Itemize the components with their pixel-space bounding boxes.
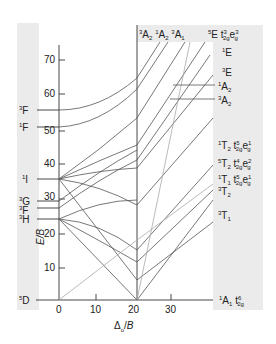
y-tick-10: 10 (44, 263, 55, 273)
y-tick-50: 50 (44, 126, 55, 136)
term-3T2: 3T2 (218, 186, 231, 198)
top-terms: 3A2 1A2 3A1 (139, 29, 185, 41)
term-1T1: 1T1 t52ge1g (218, 174, 251, 186)
term-1F: 1F (19, 122, 28, 133)
term-3T1: 3T1 (218, 210, 231, 222)
x-axis-label: Δo/B (114, 320, 133, 333)
diagram-lines (0, 0, 276, 344)
term-1E: 1E (222, 47, 232, 58)
x-tick-20: 20 (128, 305, 139, 315)
y-tick-70: 70 (44, 55, 55, 65)
term-1I: 1I (22, 174, 28, 185)
term-5E: 5E t32ge3g (208, 29, 238, 41)
y-tick-60: 60 (44, 89, 55, 99)
x-tick-0: 0 (56, 305, 62, 315)
term-1A2: 1A2 (218, 81, 231, 93)
term-5T2: 5T2 t42ge2g (218, 158, 251, 170)
term-3H: 3H (19, 214, 30, 225)
term-3F-upper: 3F (19, 105, 28, 116)
y-axis-label: E/B (35, 229, 46, 245)
x-tick-10: 10 (90, 305, 101, 315)
term-3A2: 3A2 (218, 95, 231, 107)
term-3E: 3E (222, 67, 232, 78)
x-tick-30: 30 (165, 305, 176, 315)
y-tick-30: 30 (44, 192, 55, 202)
term-1T2: 1T2 t52ge1g (218, 140, 251, 152)
term-5D: 5D (19, 295, 30, 306)
term-1A1: 1A1 t62g (219, 295, 244, 307)
y-tick-40: 40 (44, 159, 55, 169)
